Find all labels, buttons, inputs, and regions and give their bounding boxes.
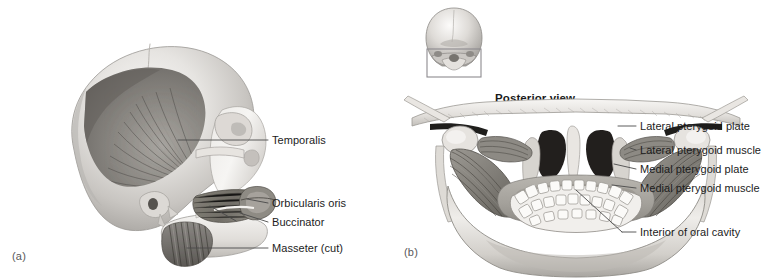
- callout-interior-of-oral-cavity: Interior of oral cavity: [640, 226, 740, 238]
- posterior-skull-with-pterygoid-muscles: [390, 0, 775, 280]
- right-choana: [586, 130, 615, 179]
- callout-medial-pterygoid-muscle: Medial pterygoid muscle: [640, 182, 760, 194]
- callout-masseter-cut: Masseter (cut): [272, 242, 343, 254]
- callout-buccinator: Buccinator: [272, 216, 324, 228]
- vomer-nasal-septum: [567, 126, 580, 182]
- panel-marker-a: (a): [12, 250, 26, 262]
- panel-a-lateral-view: Temporalis Orbicularis oris Buccinator M…: [0, 0, 390, 280]
- panel-b-posterior-view: Posterior view: [390, 0, 775, 280]
- acoustic-opening: [148, 198, 158, 210]
- left-choana: [537, 130, 566, 179]
- callout-medial-pterygoid-plate: Medial pterygoid plate: [640, 163, 749, 175]
- callout-lateral-pterygoid-plate: Lateral pterygoid plate: [640, 120, 750, 132]
- panel-marker-b: (b): [404, 246, 418, 258]
- figure-muscles-of-mastication: Temporalis Orbicularis oris Buccinator M…: [0, 0, 775, 280]
- callout-temporalis: Temporalis: [272, 134, 326, 146]
- callout-lateral-pterygoid-muscle: Lateral pterygoid muscle: [640, 144, 761, 156]
- lateral-skull-with-chewing-muscles: [0, 0, 390, 280]
- callout-orbicularis-oris: Orbicularis oris: [272, 197, 346, 209]
- nasal-aperture: [244, 150, 259, 166]
